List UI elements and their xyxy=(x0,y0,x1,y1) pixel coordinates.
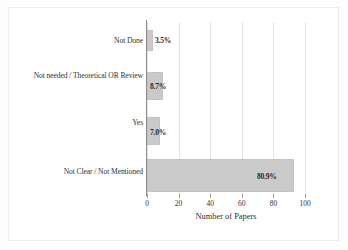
xtick-label-60: 60 xyxy=(238,199,246,208)
category-label-not-needed-theoretical-or-review: Not needed / Theoretical OR Review xyxy=(9,71,143,81)
xtick-label-100: 100 xyxy=(299,199,310,208)
bar-not-done[interactable] xyxy=(147,30,153,51)
xtick-mark-40 xyxy=(210,194,211,198)
xtick-mark-100 xyxy=(305,194,306,198)
xtick-label-20: 20 xyxy=(175,199,183,208)
xtick-mark-80 xyxy=(273,194,274,198)
xtick-mark-0 xyxy=(147,194,148,198)
xtick-label-40: 40 xyxy=(206,199,214,208)
bar-value-yes: 7.0% xyxy=(150,128,166,137)
x-axis-title: Number of Papers xyxy=(147,212,305,221)
xtick-mark-60 xyxy=(242,194,243,198)
category-label-yes: Yes xyxy=(9,118,143,128)
bar-value-not-clear-not-mentioned: 80.9% xyxy=(257,172,277,181)
gridline-100 xyxy=(305,22,306,194)
category-label-not-clear-not-mentioned: Not Clear / Not Mentioned xyxy=(9,167,143,177)
category-label-not-done: Not Done xyxy=(9,36,143,46)
bar-value-not-needed-theoretical-or-review: 8.7% xyxy=(150,82,166,91)
bar-value-not-done: 3.5% xyxy=(155,36,171,45)
category-axis-labels: Not Done Not needed / Theoretical OR Rev… xyxy=(4,0,143,250)
figure: 3.5% 8.7% 7.0% 80.9% Not Done Not needed… xyxy=(0,0,348,250)
plot-area: 3.5% 8.7% 7.0% 80.9% xyxy=(147,22,305,194)
xtick-label-0: 0 xyxy=(145,199,149,208)
xtick-label-80: 80 xyxy=(270,199,278,208)
xtick-mark-20 xyxy=(179,194,180,198)
